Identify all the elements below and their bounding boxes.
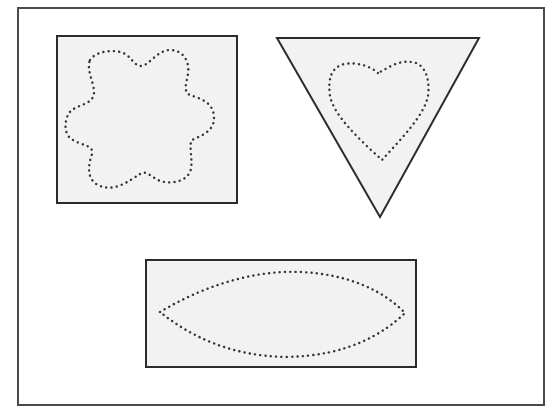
rectangle-shape (146, 260, 416, 367)
square-shape (57, 36, 237, 203)
diagram-canvas (0, 0, 556, 416)
